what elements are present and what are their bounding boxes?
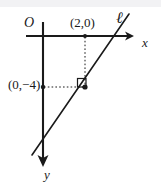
line-ell-label: ℓ: [116, 10, 123, 26]
origin-label: O: [24, 16, 34, 30]
point-dot-0-minus4: [41, 85, 45, 89]
point-dot-foot: [82, 84, 87, 89]
point-label-2-0: (2,0): [70, 16, 95, 29]
point-label-0-minus4: (0,−4): [8, 78, 40, 91]
y-axis-label: y: [44, 168, 50, 181]
x-axis-label: x: [142, 36, 148, 49]
coordinate-plane-figure: O (2,0) (0,−4) ℓ x y: [0, 0, 161, 187]
point-dot-2-0: [83, 34, 87, 38]
